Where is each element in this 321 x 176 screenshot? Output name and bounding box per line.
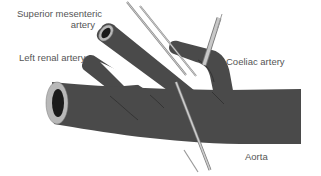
aorta — [46, 58, 301, 144]
label-sma-line2: artery — [17, 19, 95, 30]
label-coeliac-artery: Coeliac artery — [226, 56, 285, 67]
label-aorta: Aorta — [245, 151, 268, 162]
label-left-renal-artery: Left renal artery — [19, 52, 86, 63]
label-superior-mesenteric-artery: Superior mesenteric artery — [17, 8, 95, 30]
label-sma-line1: Superior mesenteric — [17, 8, 95, 19]
